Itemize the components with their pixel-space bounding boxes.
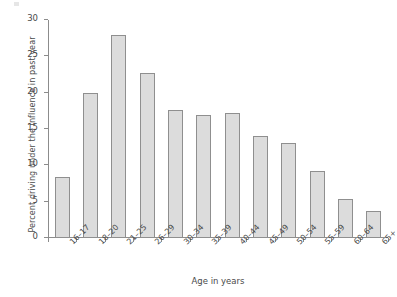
x-tick-label: 35–39 — [210, 240, 216, 246]
scan-artifact — [14, 2, 19, 6]
y-tick: 30 — [44, 19, 48, 20]
bar — [196, 115, 211, 238]
x-tick-label: 50–54 — [295, 240, 301, 246]
x-tick-label: 55–59 — [323, 240, 329, 246]
y-tick-label: 15 — [27, 122, 38, 132]
bars-group — [48, 20, 388, 238]
bar — [83, 93, 98, 238]
x-tick-label: 60–64 — [352, 240, 358, 246]
y-tick: 25 — [44, 55, 48, 56]
y-tick: 5 — [44, 201, 48, 202]
y-tick: 10 — [44, 164, 48, 165]
x-tick-label: 40–44 — [238, 240, 244, 246]
x-tick-label: 16–17 — [68, 240, 74, 246]
x-tick-label: 30–34 — [182, 240, 188, 246]
y-tick-label: 30 — [27, 13, 38, 23]
y-tick-label: 5 — [33, 195, 38, 205]
plot-area: 051015202530 — [48, 20, 388, 238]
x-tick-label: 26–29 — [153, 240, 159, 246]
bar — [168, 110, 183, 238]
y-tick: 15 — [44, 128, 48, 129]
x-tick-label: 18–20 — [97, 240, 103, 246]
y-tick: 20 — [44, 92, 48, 93]
x-tick-label: 65+ — [380, 240, 386, 246]
bar — [140, 73, 155, 238]
bar — [225, 113, 240, 238]
y-tick-label: 0 — [33, 231, 38, 241]
x-axis-title: Age in years — [48, 276, 388, 286]
y-tick-label: 25 — [27, 49, 38, 59]
x-axis-labels: 16–1718–2021–2526–2930–3435–3940–4445–49… — [48, 240, 388, 280]
bar — [55, 177, 70, 238]
x-tick-label: 45–49 — [267, 240, 273, 246]
y-tick-label: 20 — [27, 86, 38, 96]
bar-chart: Percent driving under the influence in p… — [0, 0, 397, 297]
bar — [111, 35, 126, 238]
y-tick-label: 10 — [27, 158, 38, 168]
x-tick-label: 21–25 — [125, 240, 131, 246]
